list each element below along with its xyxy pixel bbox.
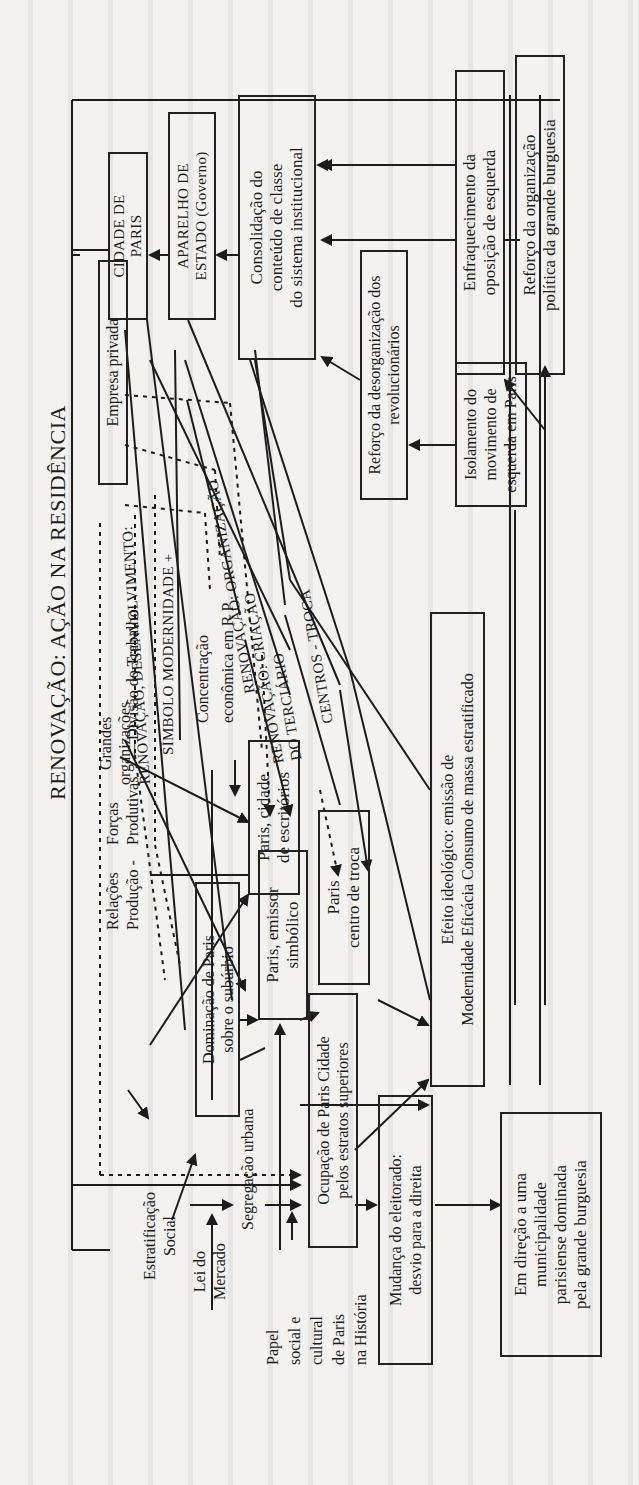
label-segregacao-urbana: Segregação urbana bbox=[238, 1109, 258, 1230]
label-relacoes-producao: Relações Produção - bbox=[103, 860, 143, 930]
label-forcas-produtivas: Forças Produtivas bbox=[103, 777, 143, 845]
box-reforco-burguesia: Reforço da organização política da grand… bbox=[515, 55, 565, 375]
box-paris-troca: Paris centro de troca bbox=[318, 810, 370, 985]
box-efeito-ideologico: Efeito ideológico: emissão de Modernidad… bbox=[430, 612, 485, 1087]
box-aparelho-de-estado: APARELHO DE ESTADO (Governo) bbox=[168, 112, 216, 320]
diagram-title: RENOVAÇÃO: AÇÃO NA RESIDÊNCIA bbox=[48, 405, 68, 800]
box-enfraquecimento: Enfraquecimento da oposição de esquerda bbox=[455, 70, 505, 375]
label-divisao-trabalho: — Divisão do Trabalho bbox=[123, 609, 143, 760]
rotated-diagram: RENOVAÇÃO: AÇÃO NA RESIDÊNCIA CIDADE DE … bbox=[0, 0, 639, 1485]
box-paris-emissor: Paris, emissor simbólico bbox=[258, 850, 308, 1020]
box-dominacao: Dominação de Paris sobre o subúrbio bbox=[195, 882, 240, 1117]
box-empresa-privada: Empresa privada bbox=[98, 260, 128, 485]
label-simbolo-modernidade: SÍMBOLO MODERNIDADE + bbox=[158, 554, 178, 755]
box-consolidacao: Consolidação do conteúdo de classe do si… bbox=[238, 95, 316, 360]
box-em-direcao: Em direção a uma municipalidade parisien… bbox=[500, 1112, 602, 1357]
box-isolamento: Isolamento do movimento de esquerda em P… bbox=[455, 362, 527, 507]
label-lei-do-mercado: Lei do Mercado bbox=[190, 1243, 230, 1300]
box-mudanca-eleitorado: Mudança do eleitorado: desvio para a dir… bbox=[378, 1095, 433, 1365]
box-reforco-desorganizacao: Reforço da desorganização dos revolucion… bbox=[360, 250, 408, 500]
label-estratificacao-social: Estratificação Social bbox=[140, 1192, 180, 1280]
label-papel-social: Papel social e cultural de Paris na Hist… bbox=[262, 1294, 372, 1365]
box-ocupacao: Ocupação de Paris Cidade pelos estratos … bbox=[308, 993, 358, 1248]
